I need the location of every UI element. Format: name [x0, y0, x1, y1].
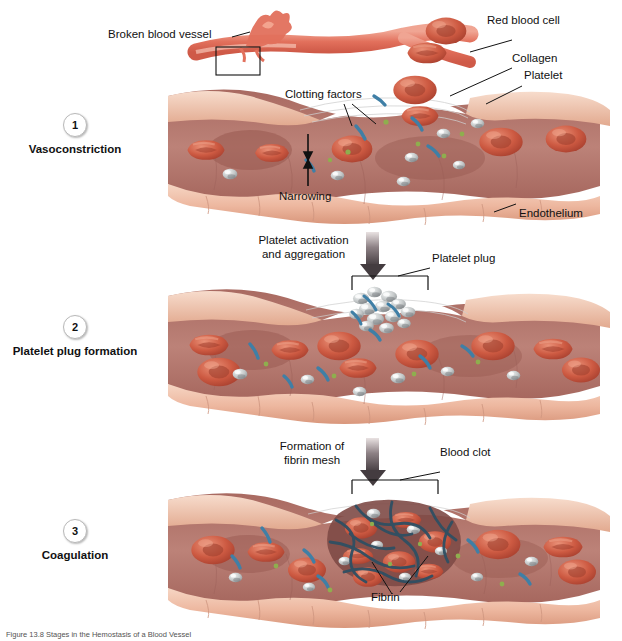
label-narrowing: Narrowing [279, 190, 331, 204]
transition-arrow-2 [360, 438, 386, 486]
figure-caption: Figure 13.8 Stages in the Hemostasis of … [6, 630, 191, 639]
platelet-plug-callout-box [352, 276, 428, 290]
step-caption-1: Vasoconstriction [20, 143, 130, 155]
label-platelet: Platelet [524, 69, 562, 83]
leader-blood-clot [400, 472, 440, 480]
label-endothelium: Endothelium [519, 207, 583, 221]
leader-collagen [450, 68, 512, 96]
transition-label-2-line2: fibrin mesh [262, 454, 362, 468]
transition-label-1-line1: Platelet activation [246, 234, 361, 248]
step-number-3: 3 [63, 519, 87, 543]
step-caption-3: Coagulation [30, 549, 120, 561]
blood-clot-callout-box [352, 480, 438, 494]
leader-platelet-plug [398, 268, 430, 276]
step-number-1: 1 [63, 113, 87, 137]
panel-3-artwork [168, 480, 610, 629]
label-platelet-plug: Platelet plug [432, 252, 495, 266]
label-broken-blood-vessel: Broken blood vessel [108, 28, 212, 42]
transition-label-1-line2: and aggregation [246, 248, 361, 262]
label-fibrin: Fibrin [371, 591, 400, 605]
leader-red-blood-cell [470, 40, 512, 52]
label-blood-clot: Blood clot [440, 446, 491, 460]
figure-root: Broken blood vessel Red blood cell Colla… [0, 0, 622, 641]
step-number-2: 2 [63, 315, 87, 339]
step-caption-2: Platelet plug formation [12, 345, 138, 357]
label-collagen: Collagen [512, 52, 557, 66]
panel-2-artwork [168, 276, 610, 425]
transition-arrow-1 [360, 232, 386, 280]
transition-label-2-line1: Formation of [262, 440, 362, 454]
label-clotting-factors: Clotting factors [285, 88, 362, 102]
label-red-blood-cell: Red blood cell [487, 14, 560, 28]
